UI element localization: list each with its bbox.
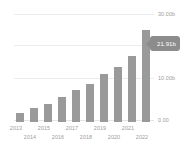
callout-value-label: 21.91b [157,41,176,47]
x-tick-2020: 2020 [105,134,123,140]
bar-2016[interactable] [58,97,66,122]
x-tick-2015: 2015 [35,125,53,131]
x-tick-2016: 2016 [49,134,67,140]
y-tick-30b: 30.00b [158,11,175,17]
bar-2017[interactable] [72,90,80,122]
bar-2019[interactable] [100,74,108,122]
callout-arrow-icon [146,40,150,48]
bar-2021[interactable] [128,56,136,122]
bar-2018[interactable] [86,84,94,122]
x-axis: 2013 2014 2015 2016 2017 2018 2019 2020 … [0,122,190,156]
bars-layer [14,10,154,122]
value-callout-tooltip: 21.91b [150,36,180,51]
bar-2015[interactable] [44,104,52,122]
bar-2014[interactable] [30,108,38,122]
x-tick-2018: 2018 [77,134,95,140]
x-tick-2014: 2014 [21,134,39,140]
x-tick-2017: 2017 [63,125,81,131]
bar-2013[interactable] [16,113,24,122]
y-tick-10b: 10.00b [158,75,175,81]
plot-area [14,10,154,122]
x-tick-2013: 2013 [7,125,25,131]
x-tick-2022: 2022 [133,134,151,140]
x-tick-2019: 2019 [91,125,109,131]
x-tick-2021: 2021 [119,125,137,131]
bar-2020[interactable] [114,67,122,122]
bar-chart-widget: 30.00b 20.00b 10.00b 0.00 2013 2014 2015… [0,0,190,156]
